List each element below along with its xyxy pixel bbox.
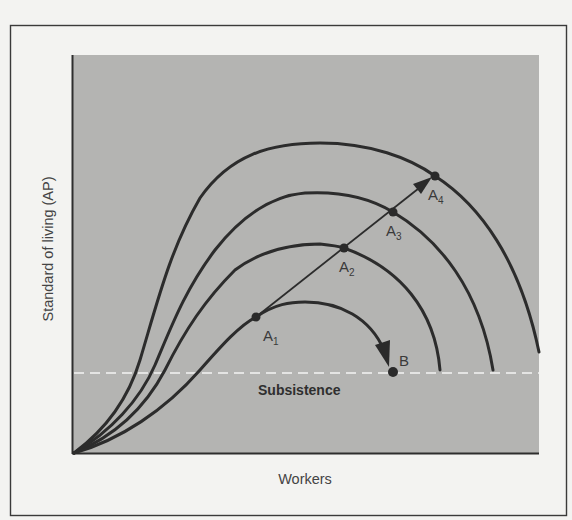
point-a4 [431, 172, 440, 181]
label-b: B [399, 352, 409, 369]
point-a1 [252, 313, 261, 322]
y-axis-label: Standard of living (AP) [40, 176, 56, 321]
ap-subsistence-diagram: A1 A2 A3 A4 B Subsistence Workers Standa… [0, 0, 572, 520]
diagram-canvas: A1 A2 A3 A4 B Subsistence Workers Standa… [0, 0, 572, 520]
point-a3 [389, 208, 398, 217]
point-b [388, 367, 398, 377]
x-axis-label: Workers [278, 471, 332, 487]
point-a2 [340, 244, 349, 253]
subsistence-label: Subsistence [258, 382, 341, 398]
